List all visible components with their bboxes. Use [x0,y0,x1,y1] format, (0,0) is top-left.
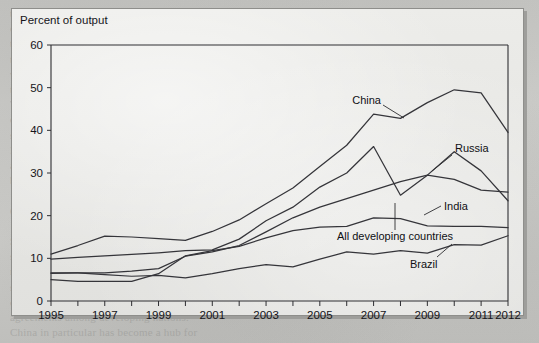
x-tick-label: 1995 [38,309,64,321]
leader-line-russia [432,155,452,171]
series-label-russia: Russia [455,142,490,154]
chart-axes [51,45,508,301]
x-tick-label: 2001 [199,309,225,321]
leader-line-brazil [437,244,452,257]
series-label-india: India [444,200,469,212]
y-tick-label: 60 [30,39,43,51]
series-label-brazil: Brazil [410,258,438,270]
y-tick-label: 10 [30,252,43,264]
x-tick-label: 2005 [307,309,333,321]
x-tick-label: 2003 [253,309,279,321]
leader-line-india [424,206,441,215]
line-chart: 0102030405060199519971999200120032005200… [0,0,539,343]
x-tick-label: 2011 [469,309,494,321]
series-label-china: China [352,94,382,106]
x-tick-label: 1997 [92,309,118,321]
series-line-russia [51,147,508,260]
y-tick-label: 40 [30,124,43,136]
x-tick-label: 2012 [495,309,521,321]
y-tick-label: 0 [37,295,43,307]
y-tick-label: 50 [30,82,43,94]
scanned-page: the region. Both sides of the divide are… [0,0,539,343]
y-tick-label: 20 [30,210,43,222]
x-tick-label: 1999 [146,309,172,321]
y-tick-label: 30 [30,167,43,179]
series-line-india [51,175,508,273]
x-tick-label: 2009 [415,309,441,321]
series-label-all-developing-countries: All developing countries [337,230,454,242]
x-tick-label: 2007 [361,309,387,321]
